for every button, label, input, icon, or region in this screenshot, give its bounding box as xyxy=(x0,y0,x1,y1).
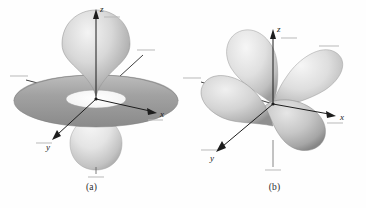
panel-a: z x y (a) xyxy=(0,0,183,208)
panel-a-y-label: y xyxy=(45,142,50,152)
panel-b-x-label: x xyxy=(339,112,344,122)
x-axis-arrowhead xyxy=(326,111,336,118)
y-axis-arrowhead xyxy=(216,141,226,152)
panel-a-z-label: z xyxy=(99,4,104,14)
origin-point xyxy=(94,97,97,100)
z-axis-arrowhead xyxy=(270,29,276,39)
panel-b-caption: (b) xyxy=(183,182,366,192)
panel-a-illustration: z x y xyxy=(0,0,183,186)
panel-a-x-label: x xyxy=(159,109,164,119)
panel-b-y-label: y xyxy=(209,153,214,163)
panel-b-z-label: z xyxy=(276,24,281,34)
panel-a-caption: (a) xyxy=(0,182,183,192)
lobe-front-bottom xyxy=(265,100,326,151)
origin-point xyxy=(271,102,274,105)
orbital-figure: z x y (a) xyxy=(0,0,366,208)
panel-b: z x y (b) xyxy=(183,0,366,208)
y-axis-arrowhead xyxy=(52,130,61,140)
panel-b-illustration: z x y xyxy=(183,0,366,186)
